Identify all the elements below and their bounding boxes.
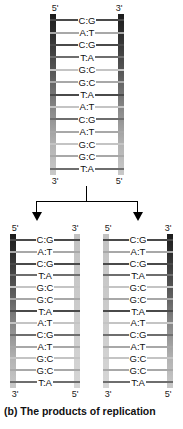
base-pair-label: G:C (78, 139, 97, 150)
base-pair-rung: A:T (10, 317, 80, 328)
base-pair-label: A:T (79, 27, 96, 38)
base-pair-label: C:G (129, 329, 148, 340)
rung-line-right (54, 286, 80, 288)
base-pair-rung: G:C (10, 294, 80, 305)
rung-line-right (147, 334, 173, 336)
rung-line-right (54, 369, 80, 371)
rung-line-right (146, 381, 173, 383)
base-pair-rung: T:A (103, 270, 173, 281)
rung-line-right (96, 118, 124, 120)
rung-line-right (54, 298, 80, 300)
base-pair-label: C:G (36, 258, 55, 269)
base-pair-rung: C:G (50, 114, 124, 125)
down-arrow-icon-right (133, 212, 143, 221)
rung-line-right (96, 81, 124, 83)
daughter-right-bottom-left-label: 3' (101, 388, 115, 400)
base-pair-rung: G:C (10, 365, 80, 376)
rung-line-left (103, 346, 130, 348)
rung-line-right (96, 69, 124, 71)
base-pair-label: A:T (79, 126, 96, 137)
rung-line-left (50, 131, 79, 133)
base-pair-label: G:C (129, 282, 148, 293)
base-pair-rung: C:G (50, 15, 124, 26)
rung-line-right (146, 310, 173, 312)
base-pair-rung: G:C (50, 151, 124, 162)
rung-line-left (103, 274, 130, 276)
rung-line-right (54, 263, 80, 265)
base-pair-rung: A:T (10, 341, 80, 352)
base-pair-label: C:G (78, 114, 97, 125)
daughter-right-top-right-label: 3' (161, 222, 175, 234)
daughter-left-dna-body: C:GA:TC:GT:AG:CG:CT:AA:TC:GA:TG:CG:CT:A (8, 234, 82, 388)
rung-line-left (103, 310, 130, 312)
down-arrow-icon-left (32, 212, 42, 221)
rung-line-right (95, 131, 124, 133)
rung-line-left (50, 81, 78, 83)
base-pair-label: C:G (78, 15, 97, 26)
base-pair-rung: C:G (50, 39, 124, 50)
rung-line-right (147, 298, 173, 300)
daughter-dna-molecule-left: 5' 3' C:GA:TC:GT:AG:CG:CT:AA:TC:GA:TG:CG… (8, 222, 82, 400)
base-pair-label: G:C (36, 294, 55, 305)
base-pair-label: T:A (37, 306, 53, 317)
rung-line-left (10, 346, 37, 348)
rung-line-left (50, 168, 79, 170)
parent-top-right-label: 3' (112, 2, 126, 14)
parent-dna-molecule: 5' 3' C:GA:TC:GT:AG:CG:CT:AA:TC:GA:TG:CG… (48, 2, 126, 187)
base-pair-label: A:T (130, 341, 147, 352)
figure-caption: (b) The products of replication (4, 405, 183, 418)
rung-line-right (147, 357, 173, 359)
base-pair-rung: C:G (103, 234, 173, 245)
daughter-right-dna-body: C:GA:TC:GT:AG:CG:CT:AA:TC:GA:TG:CG:CT:A (101, 234, 175, 388)
daughter-left-bottom-labels: 3' 5' (8, 388, 82, 400)
rung-line-left (103, 263, 129, 265)
base-pair-label: C:G (129, 234, 148, 245)
base-pair-rung: A:T (50, 101, 124, 112)
base-pair-rung: G:C (103, 294, 173, 305)
base-pair-label: A:T (130, 317, 147, 328)
base-pair-rung: A:T (103, 246, 173, 257)
base-pair-label: A:T (37, 246, 54, 257)
rung-line-right (147, 369, 173, 371)
connector-horizontal-bar (36, 201, 137, 202)
daughter-dna-molecule-right: 5' 3' C:GA:TC:GT:AG:CG:CT:AA:TC:GA:TG:CG… (101, 222, 175, 400)
rung-line-right (146, 274, 173, 276)
rung-line-right (96, 44, 124, 46)
base-pair-rung: T:A (50, 163, 124, 174)
rung-line-left (50, 94, 79, 96)
daughter-left-bottom-right-label: 5' (68, 388, 82, 400)
rung-line-left (10, 286, 36, 288)
daughter-left-top-right-label: 3' (68, 222, 82, 234)
rung-line-right (53, 310, 80, 312)
base-pair-label: C:G (78, 39, 97, 50)
rung-line-left (10, 369, 36, 371)
rung-line-left (10, 322, 37, 324)
rung-line-left (50, 143, 78, 145)
rung-line-left (103, 369, 129, 371)
base-pair-rung: T:A (103, 377, 173, 388)
rung-line-right (146, 251, 173, 253)
rung-line-right (95, 94, 124, 96)
rung-line-right (54, 239, 80, 241)
base-pair-label: T:A (130, 270, 146, 281)
rung-line-left (103, 322, 130, 324)
rung-line-left (103, 251, 130, 253)
base-pair-label: T:A (130, 377, 146, 388)
rung-line-right (147, 263, 173, 265)
daughter-right-top-left-label: 5' (101, 222, 115, 234)
base-pair-rung: A:T (50, 27, 124, 38)
base-pair-label: A:T (130, 246, 147, 257)
base-pair-label: G:C (36, 353, 55, 364)
daughter-left-top-labels: 5' 3' (8, 222, 82, 234)
rung-line-right (53, 346, 80, 348)
rung-line-right (96, 155, 124, 157)
daughter-left-bottom-left-label: 3' (8, 388, 22, 400)
base-pair-rung: G:C (10, 282, 80, 293)
base-pair-rung: G:C (50, 64, 124, 75)
rung-line-left (10, 263, 36, 265)
base-pair-rung: C:G (103, 329, 173, 340)
base-pair-rung: A:T (50, 126, 124, 137)
base-pair-label: T:A (130, 306, 146, 317)
rung-line-left (103, 239, 129, 241)
base-pair-rung: G:C (10, 353, 80, 364)
